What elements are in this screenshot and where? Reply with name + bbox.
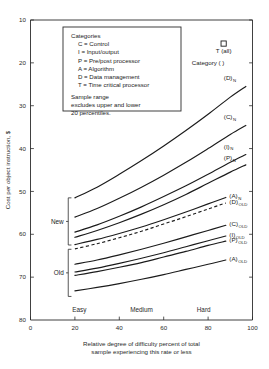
legend-note-0: Sample range xyxy=(71,93,110,100)
difficulty-band-label-hard: Hard xyxy=(197,306,211,313)
group-bracket-new xyxy=(68,198,71,245)
y-tick-label: 70 xyxy=(19,273,26,280)
difficulty-band-label-medium: Medium xyxy=(130,306,153,313)
y-tick-label: 40 xyxy=(19,145,26,152)
curve-label-a-old: (A)OLD xyxy=(229,255,247,264)
group-label-old: Old xyxy=(54,269,64,276)
series-curve-c-old xyxy=(75,225,226,264)
curve-label-p-n: (P)N xyxy=(224,154,236,163)
legend-entry-0: C = Control xyxy=(78,40,109,47)
svg-text:(C)N: (C)N xyxy=(224,113,236,122)
svg-text:(D)N: (D)N xyxy=(224,74,236,83)
x-tick-label: 0 xyxy=(29,324,33,331)
group-bracket-old xyxy=(68,249,71,296)
cost-per-object-instruction-chart: 8070605040302010020406080100Cost per obj… xyxy=(0,0,269,369)
x-tick-label: 80 xyxy=(205,324,212,331)
legend-heading: Categories xyxy=(71,32,100,39)
x-tick-label: 100 xyxy=(247,324,258,331)
curve-label-c-n: (C)N xyxy=(224,113,236,122)
series-curve-i-old xyxy=(75,236,226,272)
svg-text:(I)N: (I)N xyxy=(224,143,234,152)
group-label-new: New xyxy=(51,218,64,225)
svg-text:(P)N: (P)N xyxy=(224,154,236,163)
series-curve-p-old xyxy=(75,241,226,275)
y-tick-label: 50 xyxy=(19,188,26,195)
legend-entry-3: A = Algorithm xyxy=(78,65,114,72)
x-axis-caption-line2: sample experiencing this rate or less xyxy=(91,348,191,355)
legend-note-1: excludes upper and lower xyxy=(71,101,140,108)
svg-text:(A)OLD: (A)OLD xyxy=(229,255,247,264)
y-tick-label: 30 xyxy=(19,102,26,109)
y-tick-label: 20 xyxy=(19,59,26,66)
curve-label-d-n: (D)N xyxy=(224,74,236,83)
legend-entry-1: I = Input/output xyxy=(78,48,119,55)
y-axis-title: Cost per object instruction, $ xyxy=(4,130,11,209)
y-tick-label: 60 xyxy=(19,230,26,237)
curve-label-i-n: (I)N xyxy=(224,143,234,152)
legend-entry-5: T = Time critical processor xyxy=(78,81,149,88)
difficulty-band-label-easy: Easy xyxy=(72,306,87,314)
series-curve-a-n xyxy=(75,197,226,244)
series-curve-c-n xyxy=(75,125,246,217)
series-curve-a-old xyxy=(75,260,226,291)
chart-container: 8070605040302010020406080100Cost per obj… xyxy=(0,0,269,369)
legend-note-2: 20 percentiles. xyxy=(71,109,111,116)
legend-entry-4: D = Data management xyxy=(78,73,140,80)
x-tick-label: 40 xyxy=(116,324,123,331)
y-tick-label: 80 xyxy=(19,316,26,323)
category-annotation: Category ( ) xyxy=(192,59,225,66)
x-tick-label: 20 xyxy=(71,324,78,331)
t-all-label: T (all) xyxy=(216,47,232,54)
t-all-marker xyxy=(221,41,226,46)
legend-entry-2: P = Pre/post processor xyxy=(78,57,140,64)
x-axis-caption-line1: Relative degree of difficulty percent of… xyxy=(83,340,200,347)
svg-text:(C)OLD: (C)OLD xyxy=(229,220,247,229)
y-tick-label: 10 xyxy=(19,16,26,23)
curve-label-c-old: (C)OLD xyxy=(229,220,247,229)
x-tick-label: 60 xyxy=(160,324,167,331)
